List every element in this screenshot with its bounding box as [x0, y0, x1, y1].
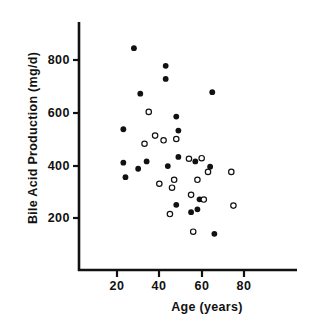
- data-point-filled-circle: [192, 158, 198, 164]
- data-point-open-circle: [171, 177, 176, 182]
- data-point-filled-circle: [173, 202, 179, 208]
- x-tick-label-60: 60: [187, 279, 217, 293]
- x-axis-title: Age (years): [79, 300, 335, 314]
- data-point-filled-circle: [188, 209, 194, 215]
- data-point-open-circle: [167, 211, 172, 216]
- data-point-open-circle: [186, 156, 191, 161]
- data-point-open-circle: [142, 141, 147, 146]
- data-point-filled-circle: [120, 160, 126, 166]
- data-point-filled-circle: [195, 206, 201, 212]
- data-point-open-circle: [188, 192, 193, 197]
- x-tick-label-80: 80: [229, 279, 259, 293]
- data-point-open-circle: [174, 136, 179, 141]
- data-point-filled-circle: [165, 163, 171, 169]
- data-points-layer: [120, 45, 236, 236]
- data-point-open-circle: [195, 177, 200, 182]
- data-point-open-circle: [152, 133, 157, 138]
- data-point-filled-circle: [135, 166, 141, 172]
- data-point-open-circle: [191, 229, 196, 234]
- data-point-open-circle: [146, 109, 151, 114]
- y-axis-title: Bile Acid Production (mg/d): [26, 13, 40, 263]
- data-point-filled-circle: [209, 89, 215, 95]
- data-point-filled-circle: [175, 154, 181, 160]
- data-point-open-circle: [231, 203, 236, 208]
- data-point-filled-circle: [123, 174, 129, 180]
- data-point-open-circle: [169, 185, 174, 190]
- data-point-filled-circle: [211, 231, 217, 237]
- data-point-filled-circle: [175, 128, 181, 134]
- x-tick-label-20: 20: [102, 279, 132, 293]
- data-point-filled-circle: [163, 76, 169, 82]
- chart-figure: 800 600 400 200 20 40 60 80 Bile Acid Pr…: [0, 0, 335, 329]
- data-point-open-circle: [199, 156, 204, 161]
- data-point-open-circle: [205, 169, 210, 174]
- data-point-filled-circle: [173, 114, 179, 120]
- data-point-open-circle: [161, 138, 166, 143]
- data-point-open-circle: [201, 197, 206, 202]
- data-point-filled-circle: [137, 91, 143, 97]
- data-point-open-circle: [157, 181, 162, 186]
- data-point-filled-circle: [163, 63, 169, 69]
- axis-lines: [78, 22, 297, 271]
- x-tick-label-40: 40: [144, 279, 174, 293]
- data-point-filled-circle: [120, 126, 126, 132]
- data-point-filled-circle: [131, 45, 137, 51]
- data-point-filled-circle: [144, 158, 150, 164]
- data-point-open-circle: [229, 169, 234, 174]
